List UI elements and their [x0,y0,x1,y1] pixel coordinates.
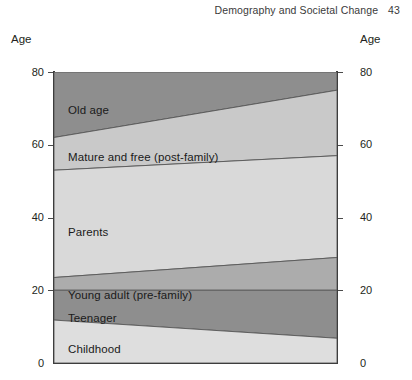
y-tick-label-left-80: 80 [14,67,44,78]
y-tick-mark-right-60 [337,145,343,146]
y-tick-label-left-0: 0 [14,358,44,369]
band-label-teenager: Teenager [68,312,117,324]
y-tick-mark-right-80 [337,72,343,73]
y-axis-caption-left: Age [11,33,31,45]
y-axis-caption-right: Age [360,33,380,45]
band-label-childhood: Childhood [68,343,121,355]
y-tick-label-left-60: 60 [14,139,44,150]
area-band-parents [54,156,337,278]
y-tick-mark-right-40 [337,218,343,219]
life-stages-area-chart: Age Age 808060604040202000 Old ageMature… [0,0,412,380]
y-tick-label-right-80: 80 [360,67,390,78]
y-tick-label-right-60: 60 [360,139,390,150]
band-label-mature-and-free-post-family: Mature and free (post-family) [68,151,219,163]
band-label-parents: Parents [68,226,108,238]
y-tick-mark-right-20 [337,290,343,291]
y-tick-label-left-40: 40 [14,212,44,223]
y-tick-label-left-20: 20 [14,285,44,296]
y-tick-label-right-20: 20 [360,285,390,296]
band-label-young-adult-pre-family: Young adult (pre-family) [68,289,192,301]
band-label-old-age: Old age [68,104,109,116]
y-tick-label-right-40: 40 [360,212,390,223]
y-tick-label-right-0: 0 [360,358,390,369]
